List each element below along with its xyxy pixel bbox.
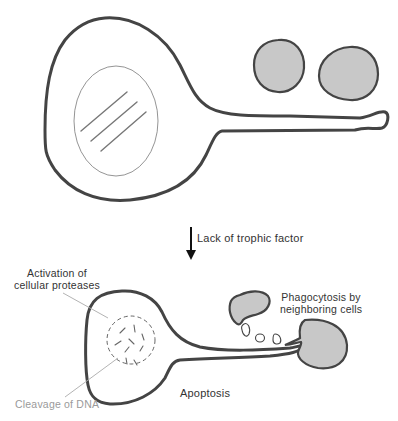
dna-leader-line — [65, 358, 118, 397]
apoptotic-body-2 — [256, 334, 265, 342]
phagocyte-1 — [230, 291, 270, 324]
healthy-nucleus — [74, 66, 158, 176]
target-cells — [254, 40, 378, 100]
fragmented-nucleus — [107, 316, 155, 364]
down-arrow-icon — [186, 227, 196, 260]
apoptosis-label: Apoptosis — [180, 387, 230, 399]
dna-fragments — [115, 325, 144, 365]
activation-of-cellular-proteases-label: Activation of cellular proteases — [14, 267, 100, 291]
apoptosis-diagram — [0, 0, 398, 421]
target-cell-2 — [319, 47, 378, 100]
target-cell-1 — [254, 40, 304, 92]
apoptotic-bodies — [242, 324, 281, 344]
healthy-neuron-body-outline — [45, 18, 388, 201]
cleavage-of-dna-label: Cleavage of DNA — [15, 398, 99, 410]
lack-of-trophic-factor-label: Lack of trophic factor — [197, 232, 304, 244]
phagocyte-2 — [285, 320, 347, 369]
chromatin-strands — [81, 92, 146, 151]
phagocytosis-label: Phagocytosis by neighboring cells — [280, 291, 362, 315]
healthy-neuron — [45, 18, 388, 201]
apoptotic-body-3 — [273, 334, 281, 344]
apoptotic-body-1 — [242, 324, 250, 336]
